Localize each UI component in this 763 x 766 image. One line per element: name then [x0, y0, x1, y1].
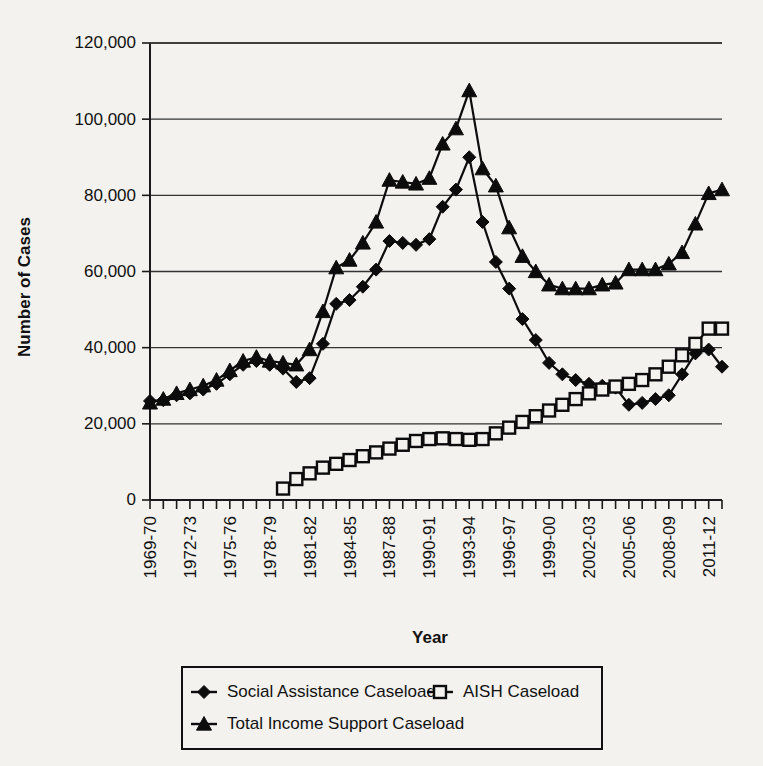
y-axis-tick-label: 80,000: [84, 186, 136, 205]
legend-label: AISH Caseload: [463, 682, 579, 701]
square-marker-icon: [290, 473, 302, 485]
legend-label: Social Assistance Caseload: [227, 682, 436, 701]
square-marker-icon: [450, 433, 462, 445]
x-axis-tick-label: 2008-09: [660, 516, 679, 578]
square-marker-icon: [423, 433, 435, 445]
square-marker-icon: [583, 387, 595, 399]
square-marker-icon: [516, 416, 528, 428]
square-marker-icon: [663, 361, 675, 373]
square-marker-icon: [623, 378, 635, 390]
y-axis-tick-label: 120,000: [75, 33, 136, 52]
square-marker-icon: [434, 686, 446, 698]
x-axis-title: Year: [412, 628, 448, 647]
square-marker-icon: [596, 384, 608, 396]
x-axis-tick-label: 1996-97: [500, 516, 519, 578]
square-marker-icon: [304, 467, 316, 479]
square-marker-icon: [556, 399, 568, 411]
x-axis-tick-label: 1972-73: [181, 516, 200, 578]
y-axis-tick-label: 40,000: [84, 338, 136, 357]
square-marker-icon: [330, 458, 342, 470]
x-axis-tick-label: 1990-91: [420, 516, 439, 578]
x-axis-tick-label: 1981-82: [301, 516, 320, 578]
chart-svg-canvas: 020,00040,00060,00080,000100,000120,000 …: [0, 0, 763, 766]
x-axis-tick-label: 1999-00: [540, 516, 559, 578]
square-marker-icon: [716, 323, 728, 335]
caseload-line-chart: 020,00040,00060,00080,000100,000120,000 …: [0, 0, 763, 766]
square-marker-icon: [397, 439, 409, 451]
x-axis-tick-label: 2002-03: [580, 516, 599, 578]
legend-item-3[interactable]: Total Income Support Caseload: [191, 714, 464, 733]
square-marker-icon: [543, 405, 555, 417]
square-marker-icon: [490, 427, 502, 439]
x-axis-tick-label: 1969-70: [141, 516, 160, 578]
square-marker-icon: [530, 410, 542, 422]
y-axis-tick-label: 20,000: [84, 414, 136, 433]
square-marker-icon: [703, 323, 715, 335]
x-axis-tick-label: 1993-94: [460, 516, 479, 578]
square-marker-icon: [689, 338, 701, 350]
square-marker-icon: [477, 433, 489, 445]
square-marker-icon: [463, 434, 475, 446]
y-axis-title: Number of Cases: [15, 217, 34, 357]
square-marker-icon: [383, 443, 395, 455]
square-marker-icon: [410, 435, 422, 447]
x-axis-tick-label: 1987-88: [380, 516, 399, 578]
legend-group: Social Assistance CaseloadAISH CaseloadT…: [182, 667, 602, 749]
square-marker-icon: [610, 381, 622, 393]
x-axis-tick-labels-group: 1969-701972-731975-761978-791981-821984-…: [141, 516, 719, 578]
square-marker-icon: [277, 483, 289, 495]
x-axis-tick-label: 1978-79: [261, 516, 280, 578]
x-axis-tick-label: 1975-76: [221, 516, 240, 578]
square-marker-icon: [676, 349, 688, 361]
square-marker-icon: [503, 422, 515, 434]
y-axis-tick-label: 60,000: [84, 262, 136, 281]
square-marker-icon: [570, 393, 582, 405]
y-axis-tick-label: 100,000: [75, 110, 136, 129]
square-marker-icon: [437, 432, 449, 444]
square-marker-icon: [357, 450, 369, 462]
x-axis-tick-label: 2011-12: [700, 516, 719, 577]
square-marker-icon: [636, 374, 648, 386]
legend-item-1[interactable]: Social Assistance Caseload: [191, 682, 436, 701]
square-marker-icon: [344, 454, 356, 466]
y-axis-tick-label: 0: [127, 490, 136, 509]
square-marker-icon: [650, 368, 662, 380]
square-marker-icon: [370, 446, 382, 458]
legend-label: Total Income Support Caseload: [227, 714, 464, 733]
x-axis-tick-label: 2005-06: [620, 516, 639, 578]
legend-container: [182, 667, 602, 749]
x-axis-tick-label: 1984-85: [341, 516, 360, 578]
square-marker-icon: [317, 462, 329, 474]
